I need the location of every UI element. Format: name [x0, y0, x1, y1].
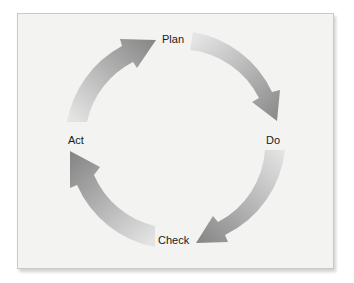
arrow-check-to-act — [70, 151, 155, 247]
arrow-act-to-plan — [67, 39, 156, 122]
node-label-act: Act — [68, 134, 84, 146]
node-label-check: Check — [158, 234, 189, 246]
arrow-plan-to-do — [190, 32, 280, 121]
arrow-do-to-check — [196, 150, 285, 243]
node-label-plan: Plan — [162, 33, 184, 45]
node-label-do: Do — [266, 134, 280, 146]
